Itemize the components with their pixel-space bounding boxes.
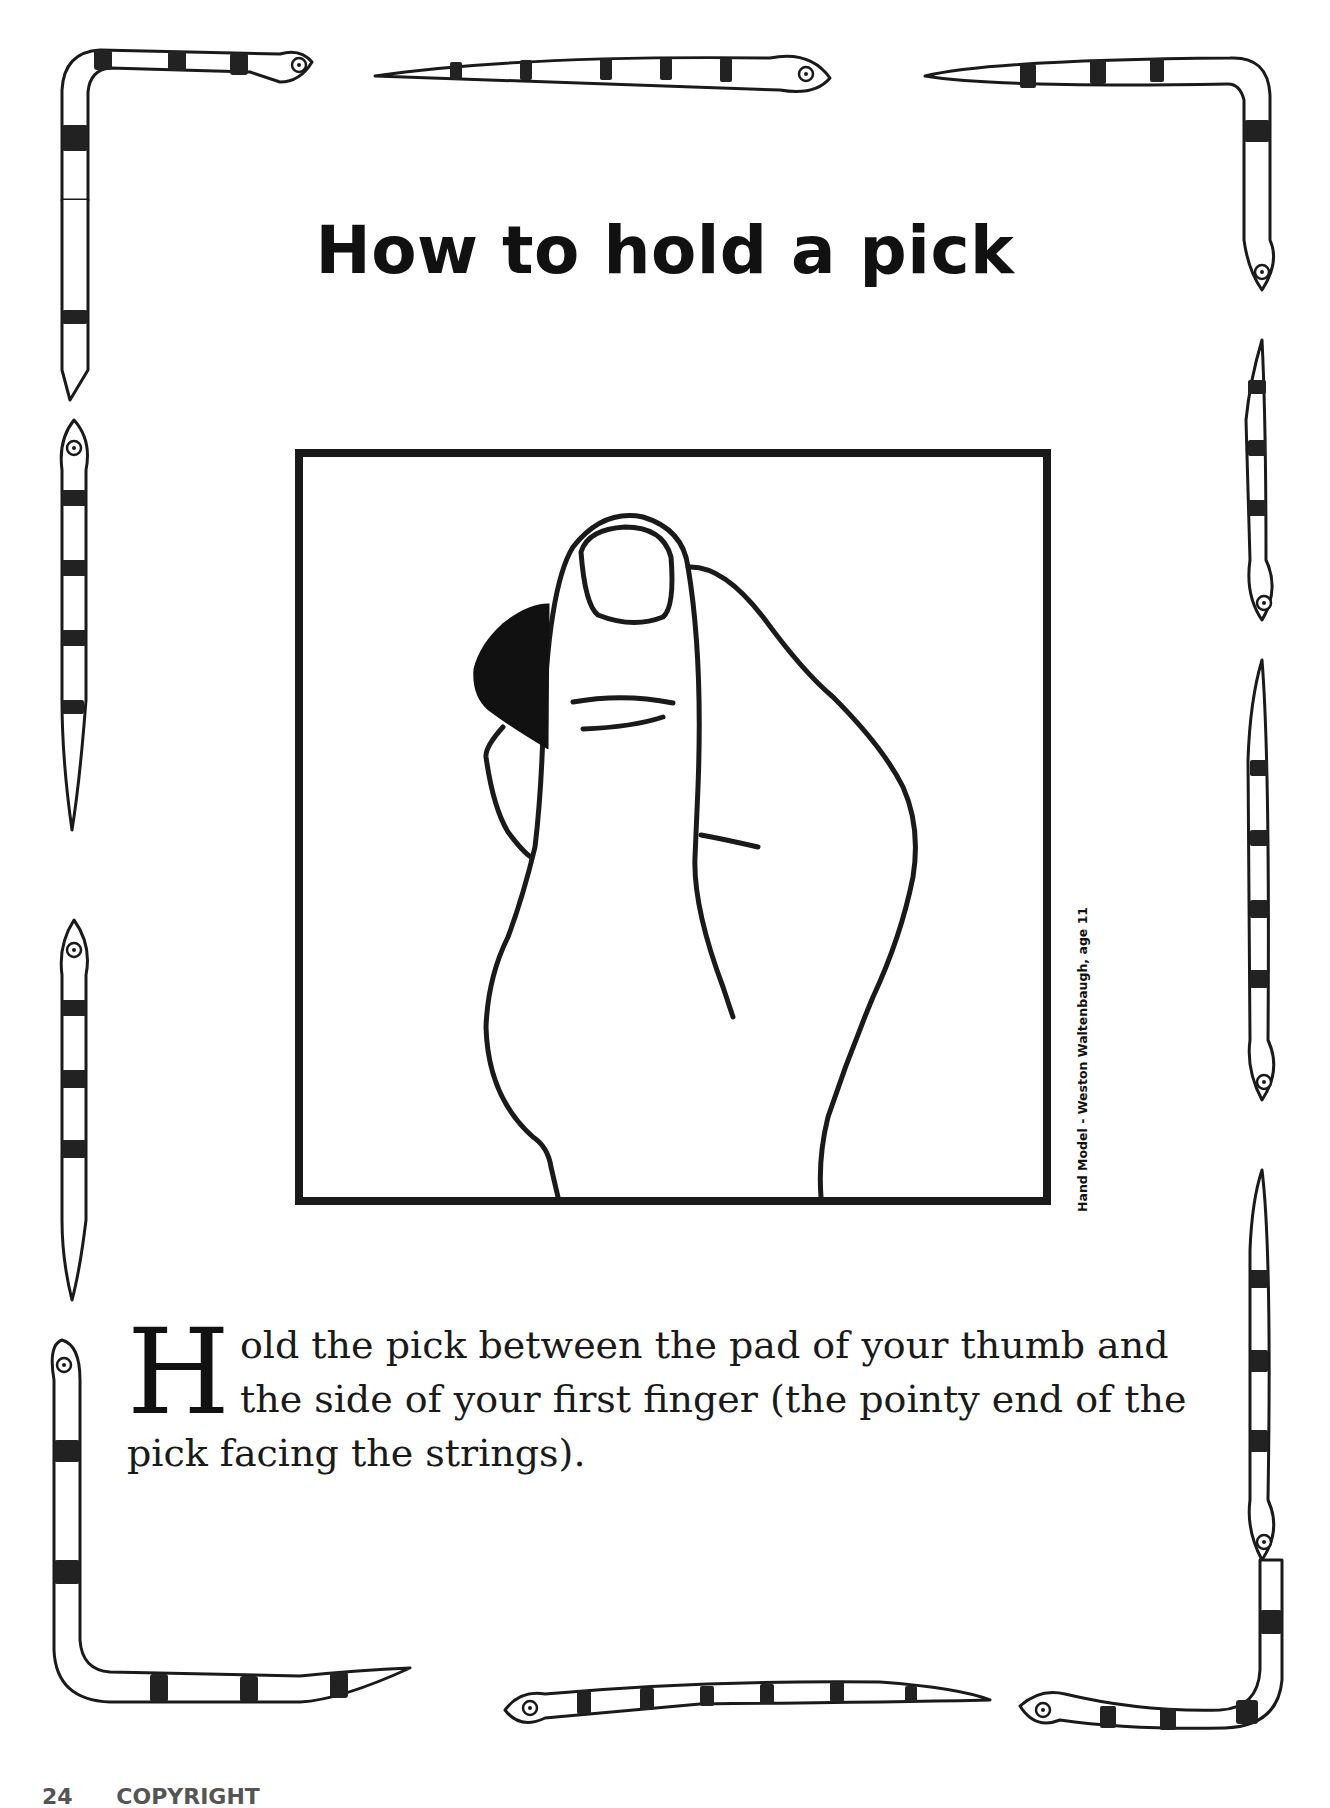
- page-footer: 24 COPYRIGHT: [42, 1784, 296, 1808]
- hand-illustration-frame: [295, 449, 1051, 1205]
- instruction-text: old the pick between the pad of your thu…: [127, 1323, 1187, 1475]
- hand-holding-pick-icon: [303, 457, 1043, 1197]
- running-footer: COPYRIGHT: [116, 1784, 260, 1808]
- drop-cap: H: [127, 1324, 230, 1420]
- figure-credit: Hand Model - Weston Waltenbaugh, age 11: [1075, 907, 1090, 1212]
- page-title: How to hold a pick: [0, 212, 1330, 289]
- page-number: 24: [42, 1784, 73, 1808]
- instruction-paragraph: H old the pick between the pad of your t…: [127, 1318, 1187, 1480]
